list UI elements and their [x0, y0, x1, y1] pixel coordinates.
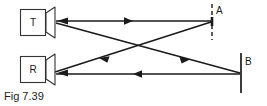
receiver-unit[interactable]: R: [21, 54, 56, 85]
figure-caption: Fig 7.39: [4, 90, 44, 102]
receiver-label: R: [29, 64, 36, 75]
reflector-b-label: B: [245, 56, 252, 67]
reflector-b[interactable]: B: [241, 53, 252, 93]
transmitter-label: T: [30, 17, 36, 28]
transmitter-unit[interactable]: T: [21, 7, 56, 38]
ray-diagram: T R A B Fig 7.39: [0, 0, 267, 106]
arrowhead-left-bottom: [133, 70, 142, 77]
receiver-horn-icon: [46, 54, 55, 85]
ray-transmitter-to-reflector-b: [56, 23, 240, 73]
transmitter-horn-icon: [46, 7, 55, 38]
reflector-a-label: A: [216, 5, 223, 16]
figure-container: T R A B Fig 7.39: [0, 0, 267, 106]
reflector-a[interactable]: A: [212, 4, 223, 40]
arrowhead-right-top: [124, 17, 133, 24]
